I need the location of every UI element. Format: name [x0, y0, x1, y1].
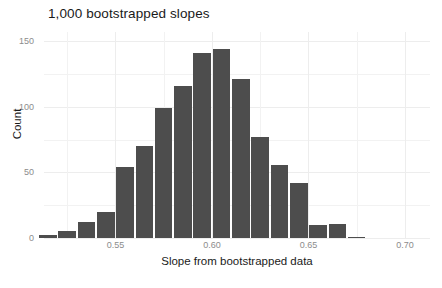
histogram-bars — [44, 32, 430, 238]
chart-title: 1,000 bootstrapped slopes — [48, 6, 210, 21]
histogram-bar — [155, 108, 173, 238]
y-axis-tick-label: 0 — [29, 233, 34, 243]
histogram-bar — [78, 222, 96, 238]
y-axis-title: Count — [11, 94, 23, 154]
x-axis-title: Slope from bootstrapped data — [44, 255, 430, 267]
histogram-bar — [290, 183, 308, 238]
x-axis-tick-labels: 0.550.600.650.70 — [44, 240, 430, 256]
histogram-chart: 1,000 bootstrapped slopes 050100150 0.55… — [0, 0, 442, 288]
histogram-bar — [271, 165, 289, 238]
histogram-bar — [232, 79, 250, 238]
y-axis-tick-label: 50 — [24, 167, 34, 177]
x-axis-tick-label: 0.65 — [300, 240, 318, 250]
plot-area — [44, 32, 430, 238]
histogram-bar — [213, 49, 231, 238]
x-axis-tick-label: 0.70 — [396, 240, 414, 250]
x-axis-tick-label: 0.60 — [203, 240, 221, 250]
histogram-bar — [39, 235, 57, 238]
histogram-bar — [116, 167, 134, 238]
histogram-bar — [97, 212, 115, 238]
x-axis-tick-label: 0.55 — [107, 240, 125, 250]
histogram-bar — [193, 53, 211, 238]
histogram-bar — [136, 146, 154, 238]
histogram-bar — [309, 225, 327, 238]
gridline-horizontal — [44, 238, 430, 239]
histogram-bar — [348, 237, 366, 238]
histogram-bar — [174, 86, 192, 238]
histogram-bar — [58, 231, 76, 238]
y-axis-tick-label: 150 — [19, 36, 34, 46]
histogram-bar — [329, 224, 347, 238]
histogram-bar — [251, 137, 269, 238]
